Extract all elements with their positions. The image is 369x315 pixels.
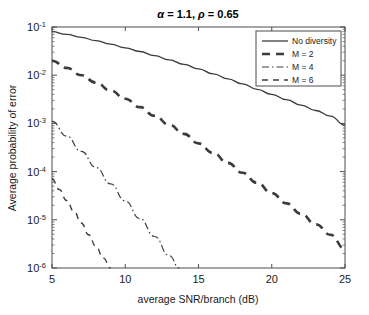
y-tick-label: 10-2 [27, 68, 46, 81]
x-tick-label: 20 [266, 273, 278, 285]
y-tick-label: 10-1 [27, 20, 46, 33]
y-tick-label: 10-3 [27, 116, 46, 129]
x-axis-label: average SNR/branch (dB) [138, 293, 259, 305]
x-tick-label: 15 [192, 273, 204, 285]
error-probability-log-plot: α = 1.1, ρ = 0.65 510152025 10-110-210-3… [0, 0, 369, 315]
legend-label-m6: M = 6 [292, 75, 314, 85]
y-tick-label: 10-5 [27, 213, 46, 226]
figure-container: α = 1.1, ρ = 0.65 510152025 10-110-210-3… [0, 0, 369, 315]
y-tick-label: 10-4 [27, 165, 46, 178]
x-tick-label: 25 [339, 273, 351, 285]
x-tick-label: 5 [49, 273, 55, 285]
y-tick-label: 10-6 [27, 261, 46, 274]
x-tick-label: 10 [119, 273, 131, 285]
legend-label-m4: M = 4 [292, 62, 314, 72]
legend-label-no-diversity: No diversity [292, 36, 337, 46]
chart-title: α = 1.1, ρ = 0.65 [157, 8, 238, 20]
legend: No diversity M = 2 M = 4 M = 6 [256, 31, 341, 86]
y-axis-label: Average probability of error [6, 84, 18, 211]
legend-label-m2: M = 2 [292, 49, 314, 59]
